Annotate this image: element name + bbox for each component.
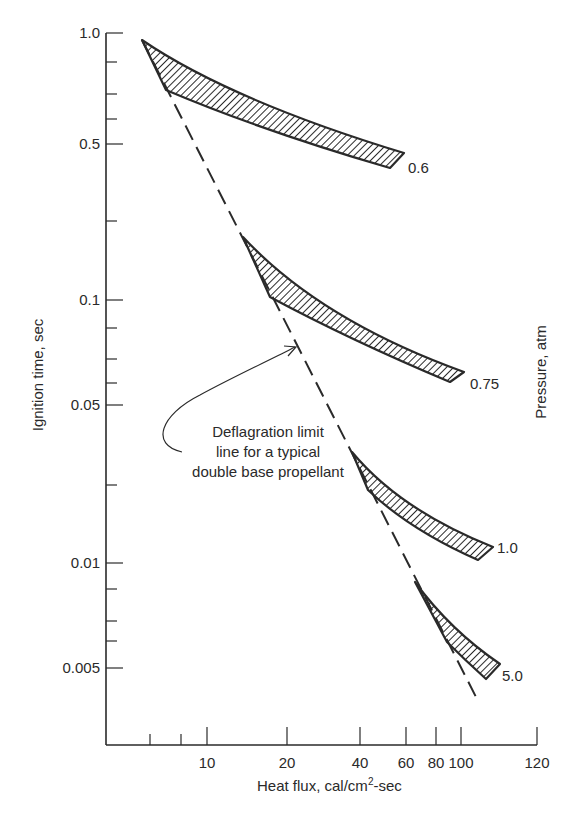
y-tick-label: 0.005 xyxy=(20,660,100,675)
x-axis-title: Heat flux, cal/cm2-sec xyxy=(257,777,402,793)
y-tick-label: 0.5 xyxy=(20,136,100,151)
x-tick-label: 120 xyxy=(512,755,562,770)
pressure-label: 5.0 xyxy=(502,668,523,683)
pressure-band-1-0 xyxy=(352,452,493,560)
y-tick-label: 0.1 xyxy=(20,292,100,307)
pressure-band-0-6 xyxy=(142,40,404,168)
pressure-band-0-75 xyxy=(243,237,464,382)
pressure-label: 0.6 xyxy=(408,160,429,175)
x-tick-label: 40 xyxy=(335,755,385,770)
annotation-line-3: double base propellant xyxy=(168,462,368,482)
y-tick-label: 0.01 xyxy=(20,555,100,570)
annotation-line-1: Deflagration limit xyxy=(168,422,368,442)
y-tick-label: 1.0 xyxy=(20,25,100,40)
y-axis-title: Ignition time, sec xyxy=(30,319,45,432)
pressure-band-5-0 xyxy=(415,582,500,679)
annotation-text: Deflagration limit line for a typical do… xyxy=(168,422,368,482)
x-tick-label: 10 xyxy=(182,755,232,770)
pressure-label: 1.0 xyxy=(497,540,518,555)
y2-axis-title: Pressure, atm xyxy=(533,325,548,418)
x-axis-title-main: Heat flux, cal/cm xyxy=(257,777,368,794)
annotation-line-2: line for a typical xyxy=(168,442,368,462)
x-axis-title-tail: -sec xyxy=(373,777,401,794)
x-tick-label: 20 xyxy=(262,755,312,770)
x-tick-label: 100 xyxy=(436,755,486,770)
pressure-label: 0.75 xyxy=(470,376,499,391)
pressure-bands xyxy=(142,40,500,679)
